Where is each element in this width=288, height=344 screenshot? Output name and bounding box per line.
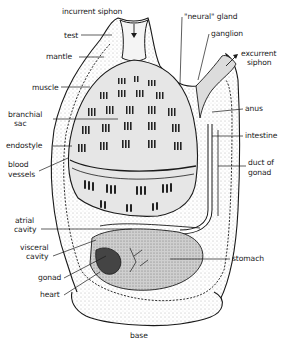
label-intestine: intestine bbox=[245, 131, 277, 140]
label-visceral-cavity-line2: cavity bbox=[26, 252, 48, 261]
label-ganglion: ganglion bbox=[211, 29, 243, 38]
label-anus: anus bbox=[245, 104, 263, 113]
label-visceral-cavity-line1: visceral bbox=[20, 243, 49, 252]
label-incurrent-siphon: incurrent siphon bbox=[62, 7, 122, 16]
label-atrial-cavity-line1: atrial bbox=[15, 216, 34, 225]
label-excurrent-siphon-line2: siphon bbox=[247, 58, 272, 67]
label-blood-vessels-line1: blood bbox=[8, 160, 29, 169]
label-neural-gland: "neural" gland bbox=[184, 12, 237, 21]
label-muscle: muscle bbox=[32, 83, 59, 92]
label-base: base bbox=[130, 331, 148, 340]
label-branchial-sac-line2: sac bbox=[14, 119, 27, 128]
label-duct-of-gonad-line1: duct of bbox=[248, 158, 274, 167]
label-gonad: gonad bbox=[38, 273, 61, 282]
label-atrial-cavity-line2: cavity bbox=[14, 225, 36, 234]
label-stomach: stomach bbox=[232, 254, 264, 263]
incurrent-siphon-structure bbox=[120, 20, 148, 61]
label-endostyle: endostyle bbox=[6, 141, 42, 150]
label-duct-of-gonad-line2: gonad bbox=[248, 168, 271, 177]
label-heart: heart bbox=[40, 290, 60, 299]
label-excurrent-siphon-line1: excurrent bbox=[241, 49, 276, 58]
label-mantle: mantle bbox=[46, 52, 72, 61]
label-test: test bbox=[64, 31, 78, 40]
label-branchial-sac-line1: branchial bbox=[8, 110, 42, 119]
label-blood-vessels-line2: vessels bbox=[8, 170, 35, 179]
